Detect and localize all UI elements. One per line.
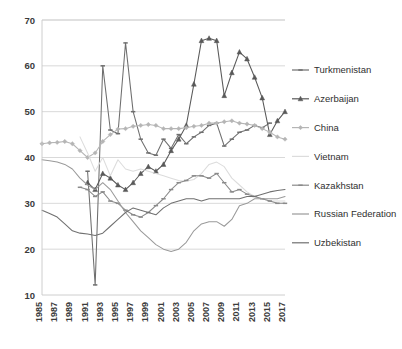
series-vietnam bbox=[80, 137, 285, 201]
data-point-marker bbox=[176, 126, 180, 130]
series-uzbekistan bbox=[42, 190, 285, 236]
data-point-marker bbox=[63, 139, 67, 143]
data-point-marker bbox=[169, 126, 173, 130]
data-point-marker bbox=[123, 126, 127, 130]
x-axis-tick-label: 2013 bbox=[247, 302, 257, 322]
ytick-label-group: 10203040506070 bbox=[24, 15, 35, 301]
data-point-marker bbox=[131, 124, 135, 128]
data-point-marker bbox=[55, 140, 59, 144]
x-axis-tick-label: 1993 bbox=[95, 302, 105, 322]
legend-item-russian-federation[interactable]: Russian Federation bbox=[292, 208, 396, 219]
x-axis-tick-label: 1997 bbox=[125, 302, 135, 322]
x-axis-tick-label: 2007 bbox=[201, 302, 211, 322]
data-point-marker bbox=[199, 123, 203, 127]
data-point-marker bbox=[229, 70, 234, 75]
legend-item-label: Azerbaijan bbox=[314, 93, 359, 104]
data-point-marker bbox=[237, 49, 242, 54]
legend: TurkmenistanAzerbaijanChinaVietnamKazakh… bbox=[292, 64, 396, 248]
x-axis-tick-label: 2003 bbox=[171, 302, 181, 322]
grid-group bbox=[42, 20, 285, 249]
data-point-marker bbox=[222, 120, 226, 124]
data-point-marker bbox=[207, 36, 212, 41]
data-point-marker bbox=[154, 123, 158, 127]
data-point-marker bbox=[222, 93, 227, 98]
series-line bbox=[42, 190, 285, 236]
y-axis-tick-label: 50 bbox=[24, 106, 35, 117]
data-point-marker bbox=[161, 162, 166, 167]
legend-item-kazakhstan[interactable]: Kazakhstan bbox=[292, 180, 364, 191]
legend-item-label: China bbox=[314, 122, 340, 133]
data-point-marker bbox=[245, 122, 249, 126]
data-point-marker bbox=[47, 141, 51, 145]
x-axis-tick-label: 1985 bbox=[34, 302, 44, 322]
legend-item-china[interactable]: China bbox=[292, 122, 340, 133]
data-point-marker bbox=[252, 75, 257, 80]
data-point-marker bbox=[191, 82, 196, 87]
x-axis-tick-label: 1995 bbox=[110, 302, 120, 322]
series-line bbox=[88, 38, 285, 189]
legend-item-label: Uzbekistan bbox=[314, 237, 361, 248]
series-line bbox=[80, 137, 285, 201]
x-axis-tick-label: 1987 bbox=[49, 302, 59, 322]
series-azerbaijan bbox=[85, 36, 287, 192]
data-point-marker bbox=[100, 171, 105, 176]
legend-item-label: Vietnam bbox=[314, 151, 349, 162]
y-axis-tick-label: 10 bbox=[24, 290, 35, 301]
x-axis-tick-label: 2005 bbox=[186, 302, 196, 322]
series-russian-federation bbox=[42, 160, 285, 252]
data-point-marker bbox=[214, 121, 218, 125]
xtick-label-group: 1985198719891991199319951997199920012003… bbox=[34, 302, 287, 322]
y-axis-tick-label: 40 bbox=[24, 152, 35, 163]
x-axis-tick-label: 2011 bbox=[231, 302, 241, 322]
x-axis-tick-label: 2009 bbox=[216, 302, 226, 322]
y-axis-tick-label: 30 bbox=[24, 198, 35, 209]
y-axis-tick-label: 20 bbox=[24, 244, 35, 255]
chart-canvas: 10203040506070 1985198719891991199319951… bbox=[0, 0, 402, 349]
data-point-marker bbox=[146, 122, 150, 126]
series-group bbox=[40, 36, 288, 285]
data-point-marker bbox=[192, 124, 196, 128]
x-axis-tick-label: 1989 bbox=[64, 302, 74, 322]
x-axis-tick-label: 2001 bbox=[156, 302, 166, 322]
legend-item-label: Russian Federation bbox=[314, 208, 396, 219]
data-point-marker bbox=[283, 137, 287, 141]
legend-item-label: Turkmenistan bbox=[314, 64, 371, 75]
legend-item-azerbaijan[interactable]: Azerbaijan bbox=[292, 93, 359, 104]
x-axis-tick-label: 1999 bbox=[140, 302, 150, 322]
legend-item-uzbekistan[interactable]: Uzbekistan bbox=[292, 237, 361, 248]
legend-item-vietnam[interactable]: Vietnam bbox=[292, 151, 349, 162]
data-point-marker bbox=[139, 123, 143, 127]
series-line bbox=[42, 160, 285, 252]
x-axis-tick-label: 2017 bbox=[277, 302, 287, 322]
data-point-marker bbox=[237, 121, 241, 125]
line-chart: 10203040506070 1985198719891991199319951… bbox=[0, 0, 402, 349]
data-point-marker bbox=[146, 164, 151, 169]
data-point-marker bbox=[260, 95, 265, 100]
x-axis-tick-label: 1991 bbox=[80, 302, 90, 322]
y-axis-tick-label: 60 bbox=[24, 60, 35, 71]
data-point-marker bbox=[161, 126, 165, 130]
x-axis-tick-label: 2015 bbox=[262, 302, 272, 322]
legend-item-label: Kazakhstan bbox=[314, 180, 364, 191]
data-point-marker bbox=[230, 119, 234, 123]
data-point-marker bbox=[298, 125, 302, 129]
legend-item-turkmenistan[interactable]: Turkmenistan bbox=[292, 64, 371, 75]
y-axis-tick-label: 70 bbox=[24, 15, 35, 26]
